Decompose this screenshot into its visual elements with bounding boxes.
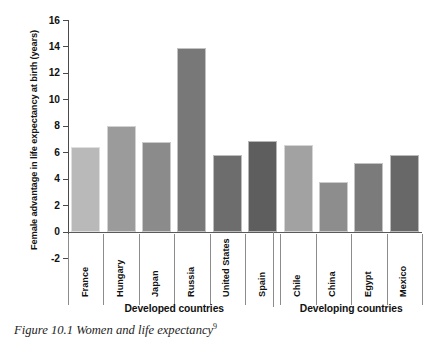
bar[interactable] [354, 163, 383, 232]
bar-slot [387, 20, 422, 232]
group-label: Developed countries [68, 303, 280, 321]
y-axis-tick-label: 14 [49, 41, 60, 52]
category-label-wrap: Russia [174, 232, 209, 298]
figure-caption-footnote: 9 [213, 322, 217, 331]
bar[interactable] [284, 145, 313, 232]
bar[interactable] [142, 142, 171, 232]
bar[interactable] [71, 147, 100, 232]
category-label-wrap: Chile [280, 232, 315, 298]
category-label: Chile [292, 275, 302, 297]
x-axis-category: Egypt [351, 232, 386, 305]
y-axis-tick-label: -2 [51, 253, 60, 264]
bar-slot [280, 20, 315, 232]
y-axis-tick-label: 12 [49, 68, 60, 79]
x-axis-category: Japan [139, 232, 174, 305]
y-axis-tick-label: 8 [54, 121, 60, 132]
x-axis-category: Hungary [103, 232, 138, 305]
group-label: Developing countries [280, 303, 422, 321]
category-label: Russia [186, 267, 196, 297]
x-axis-category-labels: FranceHungaryJapanRussiaUnited StatesSpa… [68, 232, 422, 305]
bar-slot [68, 20, 103, 232]
y-axis-tick-label: 6 [54, 147, 60, 158]
bar[interactable] [177, 48, 206, 232]
category-label: Egypt [363, 271, 373, 297]
bar-slot [351, 20, 386, 232]
y-axis-tick-label: 16 [49, 15, 60, 26]
category-label: Japan [150, 270, 160, 297]
bar[interactable] [248, 141, 277, 232]
figure-caption-text: Figure 10.1 Women and life expectancy [14, 323, 213, 337]
category-label-wrap: Egypt [351, 232, 386, 298]
group-divider [273, 232, 274, 307]
category-label-wrap: France [68, 232, 103, 298]
figure-women-and-life-expectancy: Female advantage in life expectancy at b… [0, 0, 443, 347]
y-axis-title: Female advantage in life expectancy at b… [26, 14, 42, 266]
x-axis-category: France [68, 232, 103, 305]
x-axis-category: Spain [245, 232, 280, 305]
bar-slot [316, 20, 351, 232]
category-label: China [327, 271, 337, 297]
category-separator [422, 234, 423, 305]
category-label: Spain [257, 272, 267, 297]
plot-area: 1614121086420-2 [68, 20, 422, 258]
bar-slot [139, 20, 174, 232]
x-axis-category: Chile [280, 232, 315, 305]
category-label-wrap: Japan [139, 232, 174, 298]
x-axis-category: United States [210, 232, 245, 305]
category-label: Mexico [398, 266, 408, 297]
category-label-wrap: Spain [245, 232, 280, 298]
y-axis-tick-label: 2 [54, 200, 60, 211]
bar[interactable] [390, 155, 419, 232]
x-axis-category: Russia [174, 232, 209, 305]
bar-series [68, 20, 422, 232]
bar-slot [245, 20, 280, 232]
x-axis-category: China [316, 232, 351, 305]
y-axis-tick-label: 0 [54, 226, 60, 237]
bar-slot [174, 20, 209, 232]
category-label-wrap: United States [210, 232, 245, 298]
category-label-wrap: Mexico [387, 232, 422, 298]
bar[interactable] [107, 126, 136, 232]
bar[interactable] [213, 155, 242, 232]
category-label: United States [221, 238, 231, 297]
category-separator-end [422, 232, 423, 305]
figure-caption: Figure 10.1 Women and life expectancy9 [14, 322, 217, 338]
y-axis-tick-label: 4 [54, 173, 60, 184]
x-axis-category: Mexico [387, 232, 422, 305]
category-label: France [80, 267, 90, 297]
bar[interactable] [319, 182, 348, 232]
category-label-wrap: China [316, 232, 351, 298]
category-label: Hungary [115, 260, 125, 297]
bar-slot [210, 20, 245, 232]
y-axis-tick-label: 10 [49, 94, 60, 105]
category-label-wrap: Hungary [103, 232, 138, 298]
y-axis-title-text: Female advantage in life expectancy at b… [29, 30, 39, 250]
bar-slot [103, 20, 138, 232]
